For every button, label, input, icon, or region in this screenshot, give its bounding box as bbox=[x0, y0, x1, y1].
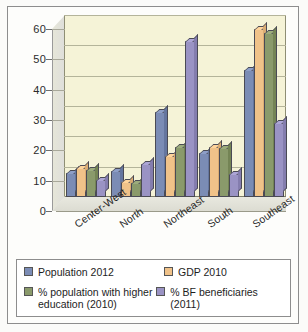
bar[interactable] bbox=[76, 168, 86, 197]
bar[interactable] bbox=[155, 112, 165, 197]
bar[interactable] bbox=[219, 148, 229, 197]
legend-label-bf-beneficiaries: % BF beneficiaries (2011) bbox=[170, 286, 283, 311]
bar[interactable] bbox=[185, 41, 195, 197]
y-axis-tick-label: 30 bbox=[20, 114, 46, 126]
y-axis-tick-label: 60 bbox=[20, 23, 46, 35]
legend-swatch-bf-beneficiaries bbox=[156, 287, 165, 296]
y-axis-tick-label: 40 bbox=[20, 84, 46, 96]
y-axis-tick-label: 50 bbox=[20, 53, 46, 65]
bar-groups bbox=[64, 15, 286, 197]
bar-group-northeast bbox=[155, 15, 195, 197]
bar[interactable] bbox=[244, 70, 254, 197]
bar-group-center-west bbox=[66, 15, 106, 197]
bar[interactable] bbox=[264, 33, 274, 197]
bar[interactable] bbox=[229, 174, 239, 197]
bar[interactable] bbox=[66, 173, 76, 197]
legend: Population 2012 GDP 2010 % population wi… bbox=[16, 259, 291, 317]
bar[interactable] bbox=[274, 123, 284, 197]
y-axis-tick-label: 10 bbox=[20, 175, 46, 187]
bar[interactable] bbox=[165, 156, 175, 197]
legend-label-higher-education: % population with higher education (2010… bbox=[38, 286, 156, 311]
bar[interactable] bbox=[86, 170, 96, 197]
bar[interactable] bbox=[96, 180, 106, 197]
bar-group-south bbox=[199, 15, 239, 197]
legend-swatch-higher-education bbox=[24, 287, 33, 296]
bar[interactable] bbox=[131, 183, 141, 197]
bar[interactable] bbox=[199, 153, 209, 197]
bar[interactable] bbox=[254, 29, 264, 197]
bar[interactable] bbox=[209, 147, 219, 197]
legend-swatch-population-2012 bbox=[24, 267, 33, 276]
y-axis-tick-label: 20 bbox=[20, 144, 46, 156]
legend-item-population-2012: Population 2012 bbox=[24, 266, 164, 279]
bar-side-face bbox=[194, 34, 198, 192]
bar[interactable] bbox=[141, 164, 151, 197]
bar-side-face bbox=[105, 173, 109, 192]
legend-item-gdp-2010: GDP 2010 bbox=[164, 266, 227, 279]
bar-side-face bbox=[238, 167, 242, 192]
chart-3d-box bbox=[52, 15, 292, 211]
figure-frame: 0102030405060 Center-WestNorthNortheastS… bbox=[7, 6, 299, 324]
legend-swatch-gdp-2010 bbox=[164, 267, 173, 276]
bar-group-southeast bbox=[244, 15, 284, 197]
legend-item-bf-beneficiaries: % BF beneficiaries (2011) bbox=[156, 286, 283, 311]
y-axis: 0102030405060 bbox=[16, 15, 46, 211]
legend-label-population-2012: Population 2012 bbox=[38, 266, 114, 279]
bar-group-north bbox=[111, 15, 151, 197]
legend-item-higher-education: % population with higher education (2010… bbox=[24, 286, 156, 311]
bar[interactable] bbox=[175, 147, 185, 197]
legend-label-gdp-2010: GDP 2010 bbox=[178, 266, 227, 279]
x-axis-labels: Center-WestNorthNortheastSouthSoutheast bbox=[16, 211, 292, 257]
bar-side-face bbox=[283, 116, 287, 192]
bar-side-face bbox=[150, 157, 154, 192]
plot-area: 0102030405060 bbox=[16, 15, 292, 211]
